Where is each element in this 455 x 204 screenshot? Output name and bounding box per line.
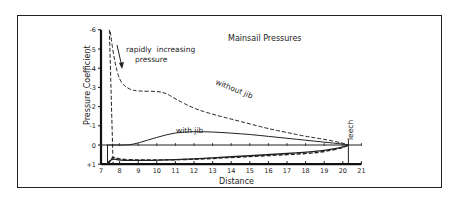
annotation-with-jib: with jib: [176, 126, 203, 135]
series-line-windward-with-jib: [107, 145, 349, 164]
y-tick-label: +1: [86, 161, 96, 169]
x-tick-label: 21: [357, 167, 365, 175]
annotation-leech: leech: [346, 120, 355, 140]
x-tick-label: 10: [153, 167, 161, 175]
x-tick-label: 11: [171, 167, 179, 175]
y-tick-label: -6: [90, 26, 96, 34]
x-tick-label: 15: [246, 167, 254, 175]
x-tick-label: 7: [99, 167, 103, 175]
x-tick-label: 19: [320, 167, 328, 175]
chart-title: Mainsail Pressures: [228, 34, 301, 43]
y-tick-label: 0: [92, 142, 96, 150]
arrowhead-icon: [119, 62, 124, 69]
series-line-with-jib: [107, 132, 349, 145]
x-tick-label: 9: [136, 167, 140, 175]
annotation-without-jib: without jib: [214, 78, 254, 101]
x-tick-label: 20: [339, 167, 347, 175]
x-tick-label: 18: [301, 167, 309, 175]
chart-svg: -6-5-4-3-2-10+17891011121314151617181920…: [0, 0, 455, 204]
x-tick-label: 8: [118, 167, 122, 175]
x-tick-label: 17: [283, 167, 291, 175]
x-tick-label: 14: [227, 167, 235, 175]
x-axis-label: Distance: [219, 177, 254, 186]
x-tick-label: 16: [264, 167, 272, 175]
y-axis-label: Pressure Coefficient: [83, 45, 92, 125]
annotation-rapidly: rapidly increasing: [126, 45, 195, 54]
x-tick-label: 13: [208, 167, 216, 175]
x-tick-label: 12: [190, 167, 198, 175]
series-line-windward-without-jib: [108, 145, 348, 164]
annotation-pressure: pressure: [135, 55, 168, 64]
